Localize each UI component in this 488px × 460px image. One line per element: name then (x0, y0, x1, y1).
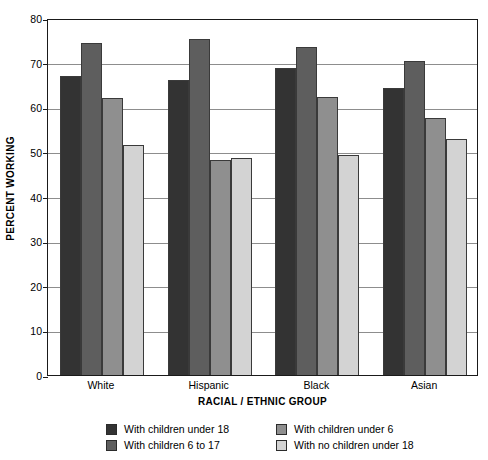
legend-label: With children 6 to 17 (124, 439, 220, 451)
plot-area (47, 19, 478, 376)
bar (446, 139, 467, 376)
bar (425, 118, 446, 375)
y-axis-title: PERCENT WORKING (0, 0, 20, 376)
x-axis-tick-label: Hispanic (188, 379, 228, 391)
bar (210, 160, 231, 375)
legend-swatch (106, 440, 117, 451)
y-axis-tick-label: 0 (18, 371, 42, 381)
y-axis-tick-label: 70 (18, 59, 42, 69)
legend-item: With children under 18 (106, 421, 276, 437)
y-axis-tick-label: 50 (18, 148, 42, 158)
x-axis-tick-labels: WhiteHispanicBlackAsian (47, 379, 478, 395)
x-axis-tick-label: White (87, 379, 114, 391)
y-axis-tick-label: 40 (18, 193, 42, 203)
legend-item: With children 6 to 17 (106, 437, 276, 453)
bar (102, 98, 123, 375)
y-axis-tick-labels: 01020304050607080 (18, 19, 46, 376)
legend-item: With no children under 18 (276, 437, 446, 453)
bar-chart-figure: PERCENT WORKING 01020304050607080 WhiteH… (0, 0, 488, 460)
y-axis-tick-label: 80 (18, 14, 42, 24)
bar (275, 68, 296, 375)
bar (123, 145, 144, 375)
bar (189, 39, 210, 375)
legend-label: With children under 18 (124, 423, 229, 435)
x-axis-tick-label: Asian (411, 379, 437, 391)
legend-swatch (276, 440, 287, 451)
x-axis-title: RACIAL / ETHNIC GROUP (47, 396, 478, 407)
bar-group (275, 20, 359, 375)
bar (296, 47, 317, 375)
x-axis-tick-label: Black (304, 379, 330, 391)
chart-legend: With children under 18With children unde… (106, 421, 446, 453)
y-axis-tick-mark (43, 377, 48, 378)
bar-group (168, 20, 252, 375)
bar (81, 43, 102, 375)
bar-groups (48, 20, 477, 375)
bar (383, 88, 404, 375)
legend-swatch (106, 424, 117, 435)
y-axis-tick-label: 30 (18, 237, 42, 247)
bar (168, 80, 189, 375)
legend-item: With children under 6 (276, 421, 446, 437)
bar (338, 155, 359, 375)
bar (231, 158, 252, 375)
bar-group (60, 20, 144, 375)
bar (404, 61, 425, 375)
legend-swatch (276, 424, 287, 435)
bar-group (383, 20, 467, 375)
bar (60, 76, 81, 375)
bar (317, 97, 338, 375)
y-axis-title-text: PERCENT WORKING (5, 136, 16, 241)
y-axis-tick-label: 20 (18, 282, 42, 292)
legend-label: With children under 6 (294, 423, 393, 435)
y-axis-tick-label: 60 (18, 103, 42, 113)
y-axis-tick-label: 10 (18, 326, 42, 336)
legend-label: With no children under 18 (294, 439, 414, 451)
